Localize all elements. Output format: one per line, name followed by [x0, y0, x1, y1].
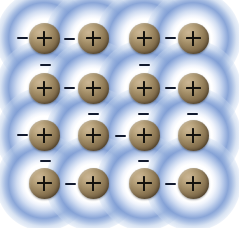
minus-charge-icon — [165, 183, 176, 186]
minus-charge-icon — [165, 37, 176, 40]
minus-charge-icon — [138, 160, 149, 163]
minus-charge-icon — [65, 183, 76, 186]
minus-charge-icon — [115, 135, 126, 138]
minus-charge-icon — [88, 113, 99, 116]
minus-charge-icon — [165, 87, 176, 90]
minus-charge-icon — [17, 134, 28, 137]
delocalised-electron-layer — [0, 0, 239, 228]
minus-charge-icon — [139, 64, 150, 67]
minus-charge-icon — [40, 160, 51, 163]
minus-charge-icon — [17, 37, 28, 40]
minus-charge-icon — [187, 113, 198, 116]
minus-charge-icon — [64, 38, 75, 41]
minus-charge-icon — [40, 64, 51, 67]
metallic-bonding-diagram — [0, 0, 239, 228]
minus-charge-icon — [64, 87, 75, 90]
minus-charge-icon — [138, 113, 149, 116]
